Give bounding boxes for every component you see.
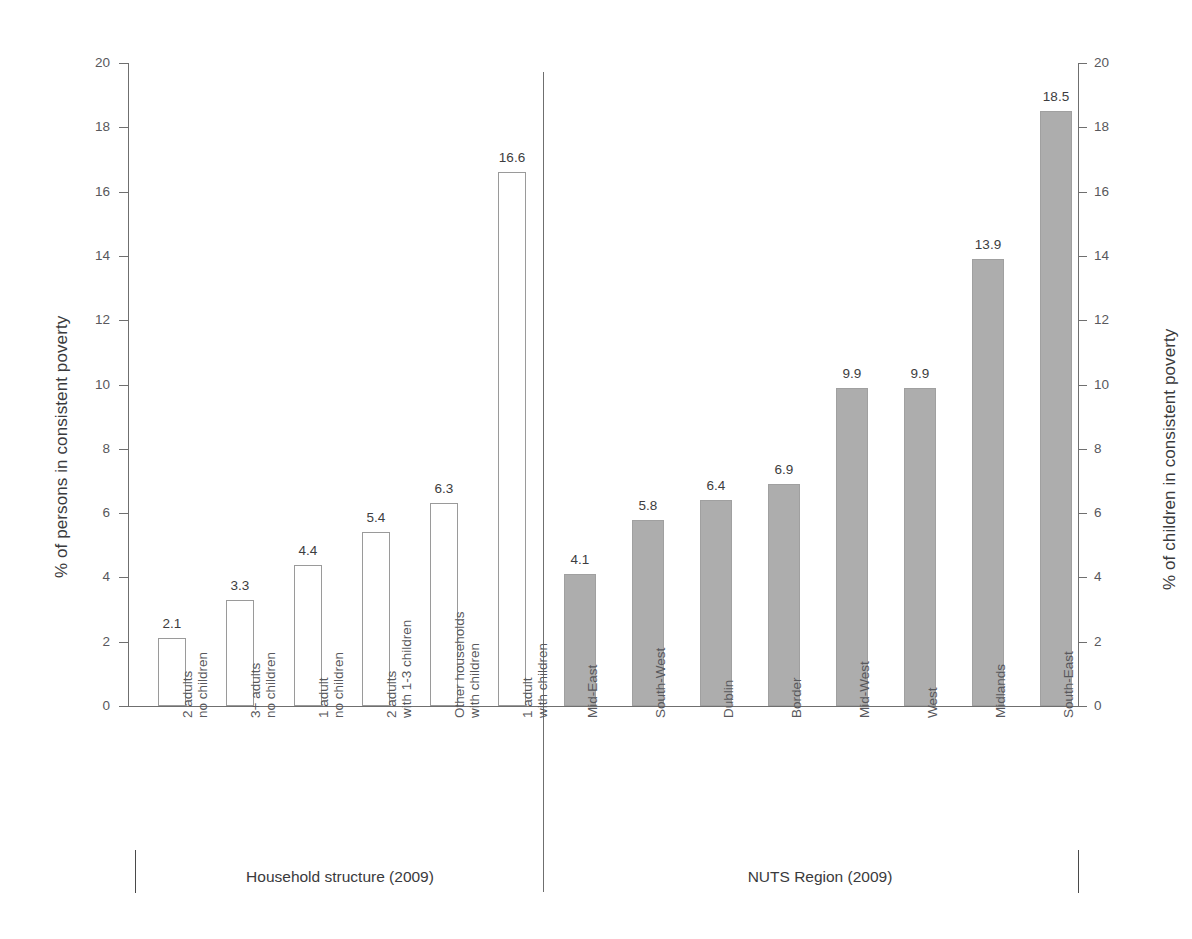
category-label-nuts-1: South-West — [653, 648, 668, 718]
category-label-nuts-6: Midlands — [993, 664, 1008, 718]
y-tick-left-2 — [119, 642, 128, 643]
y-tick-right-8 — [1078, 449, 1087, 450]
category-label-nuts-2: Dublin — [721, 680, 736, 718]
y-tick-right-10 — [1078, 385, 1087, 386]
bar-value-household-0: 2.1 — [142, 617, 202, 631]
bar-value-nuts-2: 6.4 — [686, 479, 746, 493]
y-tick-label-left-8: 8 — [70, 442, 110, 456]
footer-tick-left — [135, 850, 136, 893]
y-tick-left-0 — [119, 706, 128, 707]
y-tick-label-right-20: 20 — [1094, 56, 1134, 70]
category-label-nuts-0: Mid-East — [585, 665, 600, 718]
category-label-household-4: Other householdswith children — [452, 611, 482, 718]
y-tick-label-left-10: 10 — [70, 378, 110, 392]
y-tick-label-right-8: 8 — [1094, 442, 1134, 456]
y-tick-label-left-2: 2 — [70, 635, 110, 649]
y-tick-left-20 — [119, 63, 128, 64]
bar-value-household-5: 16.6 — [482, 151, 542, 165]
y-tick-label-right-18: 18 — [1094, 120, 1134, 134]
y-tick-label-right-14: 14 — [1094, 249, 1134, 263]
y-tick-left-18 — [119, 127, 128, 128]
group-label-household: Household structure (2009) — [160, 868, 520, 886]
y-tick-label-left-4: 4 — [70, 570, 110, 584]
y-tick-label-right-2: 2 — [1094, 635, 1134, 649]
y-tick-left-6 — [119, 513, 128, 514]
bar-nuts-4[interactable] — [836, 388, 868, 706]
group-label-nuts: NUTS Region (2009) — [640, 868, 1000, 886]
category-label-household-5: 1 adultwith children — [520, 643, 550, 718]
category-label-household-2: 1 adultno children — [316, 652, 346, 718]
y-tick-left-8 — [119, 449, 128, 450]
y-tick-right-0 — [1078, 706, 1087, 707]
bar-value-household-1: 3.3 — [210, 579, 270, 593]
bar-nuts-6[interactable] — [972, 259, 1004, 706]
y-tick-label-right-10: 10 — [1094, 378, 1134, 392]
left-y-axis-line — [128, 63, 129, 707]
bar-nuts-2[interactable] — [700, 500, 732, 706]
bar-value-nuts-4: 9.9 — [822, 367, 882, 381]
y-tick-right-14 — [1078, 256, 1087, 257]
bar-value-nuts-0: 4.1 — [550, 553, 610, 567]
left-axis-title: % of persons in consistent poverty — [52, 316, 72, 578]
y-tick-label-right-0: 0 — [1094, 699, 1134, 713]
category-label-household-1: 3+ adultsno children — [248, 652, 278, 718]
y-tick-label-left-16: 16 — [70, 185, 110, 199]
y-tick-right-12 — [1078, 320, 1087, 321]
chart-title — [0, 0, 1192, 2]
y-tick-left-16 — [119, 192, 128, 193]
bar-household-5[interactable] — [498, 172, 526, 706]
category-label-nuts-5: West — [925, 687, 940, 718]
y-tick-label-right-4: 4 — [1094, 570, 1134, 584]
bar-value-nuts-6: 13.9 — [958, 238, 1018, 252]
y-tick-right-16 — [1078, 192, 1087, 193]
y-tick-label-left-0: 0 — [70, 699, 110, 713]
category-label-nuts-7: South-East — [1061, 651, 1076, 718]
bar-nuts-3[interactable] — [768, 484, 800, 706]
bar-value-household-4: 6.3 — [414, 482, 474, 496]
bar-value-nuts-3: 6.9 — [754, 463, 814, 477]
bar-nuts-7[interactable] — [1040, 111, 1072, 706]
y-tick-label-left-20: 20 — [70, 56, 110, 70]
right-axis-title: % of children in consistent poverty — [1160, 329, 1180, 590]
bar-chart: 0022446688101012121414161618182020 % of … — [0, 0, 1192, 939]
y-tick-label-left-12: 12 — [70, 313, 110, 327]
y-tick-right-18 — [1078, 127, 1087, 128]
bar-value-household-2: 4.4 — [278, 544, 338, 558]
y-tick-label-right-16: 16 — [1094, 185, 1134, 199]
bar-value-nuts-7: 18.5 — [1026, 90, 1086, 104]
category-label-household-3: 2 adultswith 1-3 children — [384, 620, 414, 718]
y-tick-right-4 — [1078, 577, 1087, 578]
y-tick-right-2 — [1078, 642, 1087, 643]
bar-value-nuts-5: 9.9 — [890, 367, 950, 381]
bar-value-household-3: 5.4 — [346, 511, 406, 525]
y-tick-left-4 — [119, 577, 128, 578]
y-tick-label-left-18: 18 — [70, 120, 110, 134]
y-tick-left-12 — [119, 320, 128, 321]
panel-divider — [543, 72, 544, 892]
category-label-nuts-3: Border — [789, 677, 804, 718]
y-tick-left-14 — [119, 256, 128, 257]
category-label-household-0: 2 adultsno children — [180, 652, 210, 718]
bar-value-nuts-1: 5.8 — [618, 499, 678, 513]
y-tick-label-right-12: 12 — [1094, 313, 1134, 327]
y-tick-label-left-14: 14 — [70, 249, 110, 263]
y-tick-right-20 — [1078, 63, 1087, 64]
category-label-nuts-4: Mid-West — [857, 661, 872, 718]
y-tick-right-6 — [1078, 513, 1087, 514]
y-tick-label-left-6: 6 — [70, 506, 110, 520]
y-tick-label-right-6: 6 — [1094, 506, 1134, 520]
footer-tick-right — [1078, 850, 1079, 893]
bar-nuts-5[interactable] — [904, 388, 936, 706]
y-tick-left-10 — [119, 385, 128, 386]
